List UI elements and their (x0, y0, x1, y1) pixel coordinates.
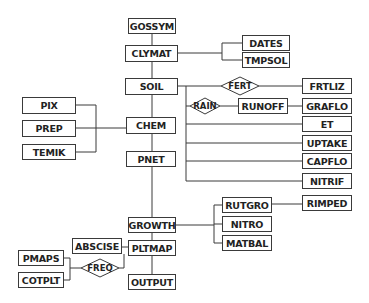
module-growth: GROWTH (128, 217, 176, 233)
module-nitrif: NITRIF (302, 173, 352, 189)
module-soil: SOIL (125, 78, 178, 95)
module-rutgro: RUTGRO (222, 197, 272, 213)
module-prep: PREP (22, 120, 76, 137)
condition-fert: FERT (221, 78, 259, 94)
module-matbal: MATBAL (222, 235, 272, 251)
gossym-module-diagram: GOSSYM CLYMAT DATES TMPSOL SOIL FERT FRT… (0, 0, 369, 303)
module-gossym: GOSSYM (128, 18, 176, 34)
module-graflo: GRAFLO (302, 98, 352, 114)
module-pmaps: PMAPS (18, 250, 64, 266)
module-abscise: ABSCISE (72, 238, 122, 254)
module-chem: CHEM (126, 117, 176, 134)
condition-freq: FREQ (81, 260, 119, 276)
module-cotplt: COTPLT (18, 272, 64, 288)
module-frtliz: FRTLIZ (302, 78, 352, 94)
module-uptake: UPTAKE (302, 135, 352, 151)
module-clymat: CLYMAT (125, 45, 178, 62)
module-capflo: CAPFLO (302, 153, 352, 169)
module-dates: DATES (242, 35, 290, 51)
module-pnet: PNET (126, 151, 176, 167)
module-pltmap: PLTMAP (128, 240, 176, 256)
module-pix: PIX (22, 97, 76, 114)
module-runoff: RUNOFF (238, 98, 288, 114)
module-temik: TEMIK (22, 144, 76, 160)
module-et: ET (302, 116, 352, 132)
module-rimped: RIMPED (302, 195, 352, 211)
module-tmpsol: TMPSOL (242, 52, 290, 68)
module-nitro: NITRO (222, 216, 272, 232)
module-output: OUTPUT (128, 274, 176, 290)
condition-rain: RAIN (190, 98, 220, 114)
